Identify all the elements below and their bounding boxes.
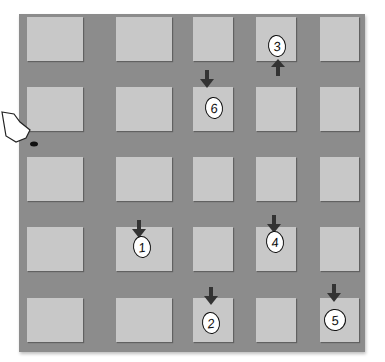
- grid-square: [320, 157, 359, 201]
- pointer-hand-icon: [0, 108, 40, 152]
- grid-square: [193, 157, 233, 201]
- grid-square: [116, 298, 172, 342]
- grid-square: [27, 157, 83, 201]
- grid-square: [256, 298, 296, 342]
- grid-square: [27, 17, 83, 61]
- grid-board: [19, 14, 365, 352]
- grid-square: [320, 227, 359, 271]
- grid-square: [320, 17, 359, 61]
- grid-square: [116, 157, 172, 201]
- grid-square: [193, 227, 233, 271]
- grid-square: [193, 17, 233, 61]
- grid-square: [320, 87, 359, 131]
- grid-square: [256, 157, 296, 201]
- grid-square: [27, 298, 83, 342]
- grid-square: [256, 87, 296, 131]
- grid-square: [116, 17, 172, 61]
- grid-square: [116, 87, 172, 131]
- grid-square: [27, 227, 83, 271]
